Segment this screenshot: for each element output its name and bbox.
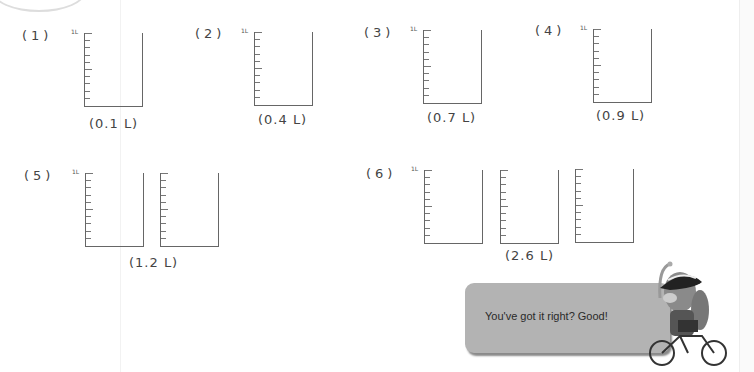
scale-ticks: [501, 170, 507, 243]
beaker: [575, 169, 634, 243]
tick-mark: [85, 91, 90, 92]
tick-mark: [255, 32, 262, 33]
tick-mark: [594, 58, 599, 59]
tick-mark: [425, 192, 430, 193]
tick-mark: [594, 72, 599, 73]
tick-mark: [86, 180, 91, 181]
mascot-dog-bicycle-icon: [640, 258, 735, 368]
beaker: 1L: [424, 170, 483, 244]
tick-mark: [424, 73, 429, 74]
beaker: 1L: [85, 173, 144, 247]
tick-mark: [576, 169, 583, 170]
problem-5-answer: (1.2 L): [129, 255, 178, 270]
scale-ticks: [85, 33, 91, 106]
scale-1l-label: 1L: [580, 24, 587, 31]
tick-mark: [255, 90, 260, 91]
tick-mark: [85, 69, 92, 70]
problem-1-answer: (0.1 L): [89, 116, 138, 131]
tick-mark: [576, 191, 581, 192]
tick-mark: [86, 231, 91, 232]
corner-decoration: [0, 0, 86, 12]
problem-5-label: (5): [24, 168, 54, 183]
scale-ticks: [594, 29, 600, 102]
tick-mark: [576, 183, 581, 184]
tick-mark: [425, 220, 430, 221]
tick-mark: [85, 83, 90, 84]
tick-mark: [161, 195, 166, 196]
bubble-text: You've got it right? Good!: [485, 310, 608, 322]
tick-mark: [85, 47, 90, 48]
tick-mark: [424, 30, 431, 31]
problem-2-label: (2): [195, 26, 225, 41]
tick-mark: [86, 223, 91, 224]
tick-mark: [594, 65, 601, 66]
tick-mark: [501, 184, 506, 185]
problem-6-answer: (2.6 L): [505, 248, 554, 263]
tick-mark: [86, 238, 91, 239]
tick-mark: [594, 36, 599, 37]
tick-mark: [161, 238, 166, 239]
beaker: 1L: [254, 32, 313, 106]
tick-mark: [255, 97, 260, 98]
tick-mark: [424, 44, 429, 45]
beaker: [500, 170, 559, 244]
tick-mark: [594, 29, 601, 30]
scale-1l-label: 1L: [71, 28, 78, 35]
tick-mark: [86, 173, 93, 174]
problem-4-answer: (0.9 L): [596, 108, 645, 123]
scale-ticks: [576, 169, 582, 242]
tick-mark: [255, 82, 260, 83]
tick-mark: [85, 98, 90, 99]
tick-mark: [501, 192, 506, 193]
tick-mark: [424, 52, 429, 53]
tick-mark: [424, 37, 429, 38]
scale-ticks: [161, 173, 167, 246]
tick-mark: [501, 235, 506, 236]
tick-mark: [425, 184, 430, 185]
tick-mark: [86, 195, 91, 196]
tick-mark: [594, 79, 599, 80]
scale-1l-label: 1L: [241, 27, 248, 34]
tick-mark: [255, 54, 260, 55]
scale-ticks: [86, 173, 92, 246]
tick-mark: [161, 180, 166, 181]
page-edge: [739, 0, 754, 372]
tick-mark: [424, 88, 429, 89]
tick-mark: [161, 231, 166, 232]
tick-mark: [255, 39, 260, 40]
tick-mark: [85, 76, 90, 77]
tick-mark: [255, 75, 260, 76]
tick-mark: [85, 62, 90, 63]
scale-ticks: [255, 32, 261, 105]
tick-mark: [594, 94, 599, 95]
tick-mark: [576, 176, 581, 177]
problem-2-answer: (0.4 L): [258, 112, 307, 127]
scale-ticks: [425, 170, 431, 243]
tick-mark: [255, 68, 262, 69]
tick-mark: [86, 202, 91, 203]
tick-mark: [85, 55, 90, 56]
tick-mark: [425, 199, 430, 200]
tick-mark: [594, 87, 599, 88]
tick-mark: [424, 95, 429, 96]
problem-4-label: (4): [535, 23, 565, 38]
tick-mark: [501, 228, 506, 229]
tick-mark: [594, 51, 599, 52]
tick-mark: [425, 170, 432, 171]
problem-3-label: (3): [364, 25, 394, 40]
tick-mark: [501, 206, 508, 207]
tick-mark: [161, 202, 166, 203]
tick-mark: [161, 223, 166, 224]
tick-mark: [424, 59, 429, 60]
problem-1-label: (1): [22, 28, 52, 43]
tick-mark: [424, 80, 429, 81]
tick-mark: [161, 216, 166, 217]
problem-3-answer: (0.7 L): [427, 110, 476, 125]
tick-mark: [425, 228, 430, 229]
problem-6-label: (6): [366, 166, 396, 181]
tick-mark: [161, 187, 166, 188]
tick-mark: [501, 213, 506, 214]
tick-mark: [576, 227, 581, 228]
tick-mark: [501, 220, 506, 221]
tick-mark: [86, 187, 91, 188]
